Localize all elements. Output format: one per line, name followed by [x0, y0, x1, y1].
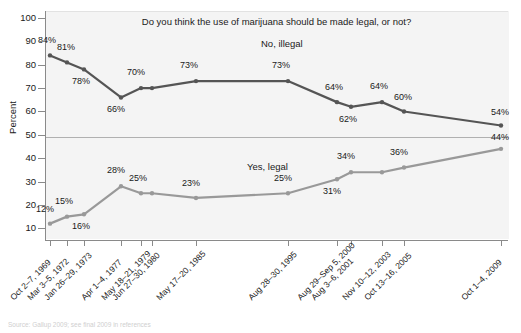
source-note: Source: Gallup 2009; see final 2009 in r… — [8, 321, 151, 328]
data-point-label: 15% — [55, 196, 73, 206]
chart-figure: 100908070605040302010 Percent Oct 2–7, 1… — [0, 0, 521, 333]
series-label-illegal: No, illegal — [261, 38, 303, 49]
data-point-label: 64% — [370, 81, 388, 91]
y-tick — [38, 205, 45, 206]
series-label-legal: Yes, legal — [247, 161, 288, 172]
y-axis-title: Percent — [7, 88, 18, 148]
data-point-label: 23% — [182, 178, 200, 188]
y-tick — [38, 18, 45, 19]
y-tick — [38, 88, 45, 89]
data-point-label: 16% — [72, 221, 90, 231]
y-tick-label: 40 — [2, 153, 36, 162]
y-tick — [38, 41, 45, 42]
y-tick — [38, 65, 45, 66]
data-point-label: 31% — [323, 186, 341, 196]
x-axis-line — [45, 240, 508, 241]
x-tick-label: Aug 28–30, 1995 — [246, 249, 299, 302]
y-tick-label: 30 — [2, 177, 36, 186]
data-point-label: 28% — [107, 165, 125, 175]
x-tick — [196, 241, 197, 246]
y-tick-label: 90 — [2, 36, 36, 45]
y-tick — [38, 158, 45, 159]
data-point-label: 78% — [72, 76, 90, 86]
x-tick — [50, 241, 51, 246]
data-point-label: 64% — [325, 82, 343, 92]
data-point-label: 34% — [337, 151, 355, 161]
data-point-label: 66% — [107, 104, 125, 114]
x-tick-label: Oct 1–4, 2009 — [459, 257, 504, 302]
y-tick-label: 10 — [2, 223, 36, 232]
data-point-label: 44% — [491, 132, 509, 142]
data-point-label: 36% — [390, 147, 408, 157]
data-point-label: 81% — [57, 42, 75, 52]
cropped-title-strip — [0, 0, 521, 11]
x-tick — [121, 241, 122, 246]
data-point-label: 73% — [180, 60, 198, 70]
y-tick — [38, 182, 45, 183]
x-tick — [67, 241, 68, 246]
data-point-label: 25% — [129, 173, 147, 183]
x-tick — [84, 241, 85, 246]
x-tick — [288, 241, 289, 246]
y-tick-label: 20 — [2, 200, 36, 209]
data-point-label: 60% — [394, 92, 412, 102]
x-tick — [501, 241, 502, 246]
chart-title: Do you think the use of marijuana should… — [45, 16, 508, 27]
y-tick-label: 80 — [2, 60, 36, 69]
gridline-50 — [45, 137, 508, 138]
x-tick — [337, 241, 338, 246]
y-tick — [38, 228, 45, 229]
data-point-label: 73% — [272, 60, 290, 70]
data-point-label: 70% — [127, 67, 145, 77]
data-point-label: 25% — [274, 173, 292, 183]
y-tick — [38, 111, 45, 112]
y-tick-label: 100 — [2, 13, 36, 22]
x-tick — [152, 241, 153, 246]
x-tick — [141, 241, 142, 246]
x-tick — [382, 241, 383, 246]
plot-top-edge — [45, 11, 508, 12]
y-tick — [38, 135, 45, 136]
data-point-label: 54% — [491, 107, 509, 117]
x-tick — [404, 241, 405, 246]
data-point-label: 62% — [339, 114, 357, 124]
